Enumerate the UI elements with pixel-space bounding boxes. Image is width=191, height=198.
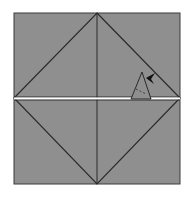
fold-diagram bbox=[0, 0, 191, 198]
